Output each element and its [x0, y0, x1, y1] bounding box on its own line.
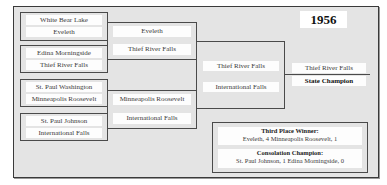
third-place-box: Third Place Winner: Eveleth, 4 Minneapol… [212, 122, 368, 173]
semifinal-team: International Falls [113, 113, 191, 124]
third-place-panel: Third Place Winner: Eveleth, 4 Minneapol… [218, 127, 362, 145]
champion-line [284, 74, 370, 75]
third-place-title: Third Place Winner: [218, 127, 362, 135]
year-label: 1956 [300, 11, 347, 28]
round1-team: Thief River Falls [26, 60, 102, 70]
semifinal-team: Eveleth [113, 26, 191, 37]
third-place-result: Eveleth, 4 Minneapolis Roosevelt, 1 [218, 135, 362, 143]
round1-team: International Falls [26, 128, 102, 138]
round1-team: St. Paul Washington [26, 82, 102, 92]
champion-label: State Champion [292, 76, 366, 86]
consolation-panel: Consolation Champion: St. Paul Johnson, … [218, 149, 362, 168]
semifinal-team: Thief River Falls [113, 44, 191, 55]
consolation-result: St. Paul Johnson, 1 Edina Morningside, 0 [218, 157, 362, 165]
consolation-title: Consolation Champion: [218, 149, 362, 157]
final-match [196, 41, 285, 109]
round1-team: Edina Morningside [26, 48, 102, 58]
round1-team: Minneapolis Roosevelt [26, 94, 102, 104]
semifinal-team: Minneapolis Roosevelt [113, 94, 191, 105]
round1-team: St. Paul Johnson [26, 116, 102, 126]
final-team: Thief River Falls [203, 61, 279, 71]
round1-team: White Bear Lake [26, 15, 102, 25]
champion-team: Thief River Falls [292, 63, 366, 73]
round1-team: Eveleth [26, 27, 102, 37]
final-team: International Falls [203, 82, 279, 92]
